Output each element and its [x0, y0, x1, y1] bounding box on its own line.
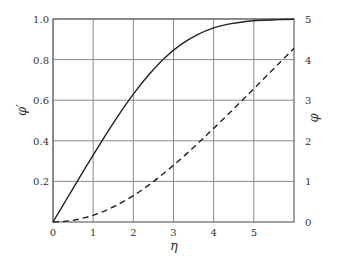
right-y-tick-label: 3	[305, 95, 311, 106]
right-y-tick-label: 5	[305, 14, 311, 25]
left-y-axis-ticks: 0.20.40.60.81.0	[33, 14, 49, 187]
right-y-tick-label: 4	[305, 55, 311, 66]
x-tick-label: 1	[90, 227, 96, 238]
x-tick-label: 3	[170, 227, 176, 238]
left-y-tick-label: 1.0	[33, 14, 49, 25]
left-y-axis-label: φ′	[14, 104, 29, 116]
x-tick-label: 4	[210, 227, 216, 238]
left-y-tick-label: 0.4	[33, 136, 49, 147]
blasius-chart: 012345 0.20.40.60.81.0 012345 η φ′ φ	[0, 0, 337, 264]
x-tick-label: 5	[251, 227, 257, 238]
left-y-tick-label: 0.6	[33, 95, 49, 106]
x-axis-label: η	[170, 238, 178, 253]
x-tick-label: 2	[130, 227, 136, 238]
right-y-axis-label: φ	[306, 113, 321, 123]
right-y-tick-label: 1	[305, 176, 311, 187]
left-y-tick-label: 0.8	[33, 55, 49, 66]
right-y-tick-label: 0	[305, 217, 311, 228]
left-y-tick-label: 0.2	[33, 176, 49, 187]
right-y-tick-label: 2	[305, 136, 311, 147]
x-tick-label: 0	[50, 227, 56, 238]
x-axis-ticks: 012345	[50, 227, 257, 238]
